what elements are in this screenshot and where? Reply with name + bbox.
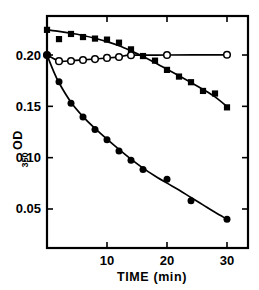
y-tick-label-0: 0.05 <box>16 201 41 216</box>
data-point-filled-circles-11 <box>224 216 231 223</box>
data-point-filled-squares-5 <box>104 37 110 43</box>
data-point-open-circles-1 <box>56 58 63 65</box>
data-point-filled-circles-1 <box>56 78 63 85</box>
data-point-filled-squares-9 <box>152 58 158 64</box>
y-axis-title-subscript: 350 <box>20 152 30 167</box>
data-point-filled-circles-6 <box>116 147 123 154</box>
data-point-filled-squares-11 <box>176 73 182 79</box>
data-point-open-circles-7 <box>128 52 135 59</box>
data-point-filled-squares-4 <box>92 35 98 41</box>
chart-background <box>0 0 259 290</box>
data-point-filled-squares-10 <box>164 67 170 73</box>
data-point-filled-squares-3 <box>80 34 86 40</box>
data-point-filled-circles-10 <box>188 197 195 204</box>
data-point-filled-squares-2 <box>68 31 74 37</box>
data-point-filled-squares-13 <box>200 88 206 94</box>
data-point-filled-squares-12 <box>188 79 194 85</box>
data-point-open-circles-3 <box>80 57 87 64</box>
data-point-filled-squares-0 <box>44 27 50 33</box>
data-point-filled-circles-8 <box>140 166 147 173</box>
data-point-filled-squares-15 <box>224 104 230 110</box>
data-point-open-circles-6 <box>116 54 123 61</box>
data-point-open-circles-2 <box>68 58 75 65</box>
x-tick-label-2: 30 <box>220 253 234 268</box>
data-point-filled-circles-3 <box>80 114 87 121</box>
data-point-filled-circles-2 <box>68 100 75 107</box>
y-tick-label-2: 0.15 <box>16 99 41 114</box>
data-point-filled-circles-5 <box>104 136 111 143</box>
data-point-open-circles-8 <box>164 52 171 59</box>
data-point-filled-squares-1 <box>56 36 62 42</box>
data-point-filled-circles-9 <box>164 176 171 183</box>
y-axis-title-text: OD <box>11 130 25 150</box>
data-point-filled-squares-6 <box>116 40 122 46</box>
data-point-filled-circles-0 <box>44 52 51 59</box>
x-tick-label-0: 10 <box>100 253 114 268</box>
chart-figure: 0.050.100.150.20 102030 OD 350 TIME (min… <box>0 0 259 290</box>
data-point-filled-circles-4 <box>92 126 99 133</box>
x-tick-label-1: 20 <box>160 253 174 268</box>
data-point-open-circles-9 <box>224 52 231 59</box>
data-point-filled-circles-7 <box>128 157 135 164</box>
data-point-open-circles-4 <box>92 56 99 63</box>
x-axis-title-text: TIME (min) <box>117 270 187 284</box>
y-tick-label-3: 0.20 <box>16 48 41 63</box>
data-point-filled-squares-14 <box>212 90 218 96</box>
data-point-open-circles-5 <box>104 55 111 62</box>
data-point-filled-squares-8 <box>140 53 146 59</box>
